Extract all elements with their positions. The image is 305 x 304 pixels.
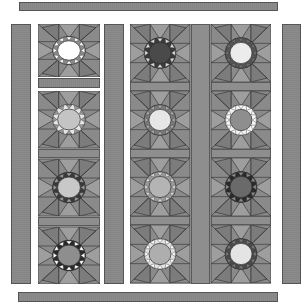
quilt-block (130, 91, 190, 149)
star-block-icon (130, 158, 190, 216)
quilt-block (38, 227, 100, 284)
star-block-icon (38, 91, 100, 148)
bottom-border-strip (18, 292, 278, 302)
quilt-block (211, 91, 271, 149)
star-block-icon (211, 24, 271, 82)
sash-strip (211, 149, 271, 158)
star-block-icon (38, 227, 100, 284)
quilt-block (130, 225, 190, 283)
star-block-icon (211, 225, 271, 283)
star-block-icon (130, 91, 190, 149)
right-border-strip (282, 24, 301, 284)
column1-sash (38, 78, 100, 88)
quilt-block (38, 91, 100, 148)
sash-strip (211, 216, 271, 225)
star-block-icon (211, 158, 271, 216)
quilt-block-col1-top (38, 24, 100, 77)
star-block-icon (38, 159, 100, 216)
column1-lower-panel (38, 91, 100, 284)
star-block-icon (130, 225, 190, 283)
star-block-icon (130, 24, 190, 82)
center-sash-strip (191, 24, 210, 284)
star-block-icon (38, 24, 100, 77)
middle-border-strip (104, 24, 124, 284)
left-border-strip (11, 24, 31, 284)
right-block-panel (130, 24, 271, 284)
sash-strip (130, 82, 190, 91)
sash-strip (38, 217, 100, 226)
quilt-block (211, 225, 271, 283)
sash-strip (211, 82, 271, 91)
quilt-block (211, 24, 271, 82)
quilt-block (130, 24, 190, 82)
top-border-strip (19, 2, 278, 11)
star-block-icon (211, 91, 271, 149)
quilt-block (130, 158, 190, 216)
sash-strip (130, 149, 190, 158)
sash-strip (38, 149, 100, 158)
quilt-block (211, 158, 271, 216)
quilt-block (38, 159, 100, 216)
sash-strip (130, 216, 190, 225)
